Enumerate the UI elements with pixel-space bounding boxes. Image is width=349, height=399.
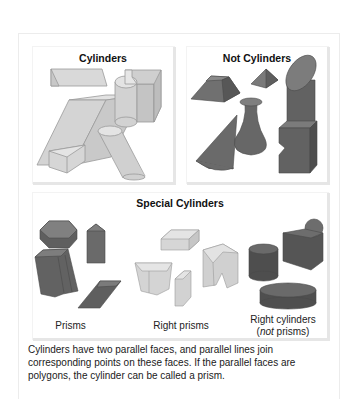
pyramid-icon [251, 69, 278, 88]
trapezoidal-prism-icon [135, 263, 172, 295]
special-cylinders-panel: Special Cylinders [33, 193, 330, 341]
frustum-icon [191, 76, 240, 102]
flat-disc-cylinder-icon [260, 283, 316, 309]
cylinders-shapes [33, 47, 173, 182]
cylinder-box-union-icon [115, 70, 161, 127]
hexagonal-prism-icon [40, 221, 77, 248]
tall-rectangular-prism-icon [175, 271, 191, 306]
rectangular-prism-flat-icon [161, 230, 199, 250]
cylinder-union-right-icon [283, 219, 323, 270]
slanted-triangular-prism-icon [51, 69, 107, 86]
right-circular-cylinder-icon [249, 244, 278, 281]
oblique-parallelogram-prism-icon [78, 281, 121, 308]
right-cylinders-label: Right cylinders (not prisms) [238, 314, 328, 338]
prisms-label: Prisms [43, 320, 98, 332]
triangular-prism-upright-icon [87, 224, 105, 263]
right-prisms-label: Right prisms [141, 320, 221, 332]
not-cylinders-panel: Not Cylinders [187, 47, 330, 185]
figure-caption: Cylinders have two parallel faces, and p… [28, 343, 333, 383]
cone-icon [196, 115, 237, 170]
vase-icon [234, 98, 266, 155]
not-cylinders-shapes [187, 47, 327, 182]
notched-block-icon [279, 121, 317, 173]
right-cylinders-line2: (not prisms) [257, 326, 310, 337]
oblique-l-prism-icon [35, 249, 78, 297]
cylinders-panel: Cylinders [33, 47, 176, 185]
right-cylinders-line1: Right cylinders [250, 314, 316, 325]
chevron-prism-icon [203, 244, 238, 288]
